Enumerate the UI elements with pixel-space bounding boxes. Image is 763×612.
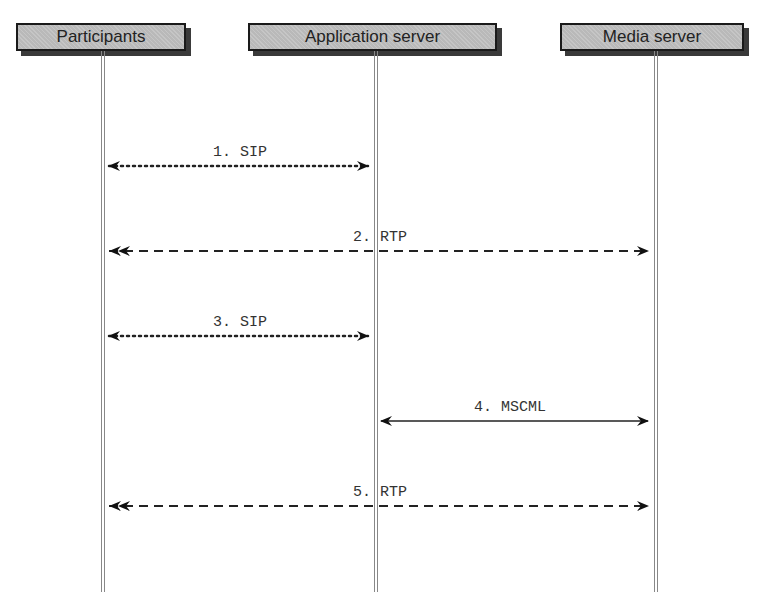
message-label-1: 1. SIP (213, 144, 267, 161)
message-arrows (0, 0, 763, 612)
message-label-2: 2. RTP (353, 229, 407, 246)
message-label-5: 5. RTP (353, 484, 407, 501)
message-label-3: 3. SIP (213, 314, 267, 331)
message-label-4: 4. MSCML (474, 399, 546, 416)
